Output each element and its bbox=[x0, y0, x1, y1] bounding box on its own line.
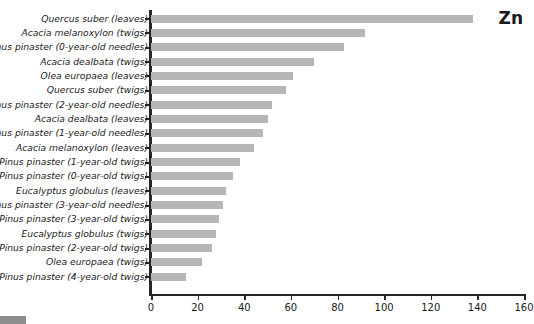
y-axis-tick bbox=[145, 147, 151, 149]
category-label: Pinus pinaster (1-year-old twigs) bbox=[0, 156, 148, 168]
y-axis-tick bbox=[145, 219, 151, 221]
bar bbox=[151, 144, 254, 152]
y-axis-tick bbox=[145, 75, 151, 77]
bar-row: Pinus pinaster (4-year-old twigs) bbox=[0, 270, 531, 284]
category-label: Pinus pinaster (4-year-old twigs) bbox=[0, 271, 148, 283]
x-axis-tick-label: 120 bbox=[421, 302, 440, 313]
category-label: Pinus pinaster (3-year-old needles) bbox=[0, 199, 148, 211]
bar-row: Eucalyptus globulus (twigs) bbox=[0, 227, 531, 241]
bar-row: Olea europaea (leaves) bbox=[0, 69, 531, 83]
x-axis-tick bbox=[198, 294, 200, 300]
category-label: Acacia melanoxylon (twigs) bbox=[21, 27, 148, 39]
category-label: Pinus pinaster (1-year-old needles) bbox=[0, 127, 148, 139]
y-axis-tick bbox=[145, 32, 151, 34]
bar-row: Acacia dealbata (leaves) bbox=[0, 112, 531, 126]
y-axis-tick bbox=[145, 18, 151, 20]
x-axis-tick-label: 20 bbox=[191, 302, 204, 313]
bar-row: Pinus pinaster (1-year-old twigs) bbox=[0, 155, 531, 169]
category-label: Quercus suber (leaves) bbox=[41, 13, 148, 25]
category-label: Quercus suber (twigs) bbox=[47, 84, 148, 96]
x-axis-tick-label: 140 bbox=[468, 302, 487, 313]
bar-row: Pinus pinaster (2-year-old needles) bbox=[0, 98, 531, 112]
category-label: Eucalyptus globulus (leaves) bbox=[16, 185, 148, 197]
y-axis-tick bbox=[145, 248, 151, 250]
x-axis-tick-label: 100 bbox=[375, 302, 394, 313]
bar-row: Pinus pinaster (0-year-old needles) bbox=[0, 40, 531, 54]
bar bbox=[151, 172, 233, 180]
y-axis-tick bbox=[145, 118, 151, 120]
y-axis-tick bbox=[145, 276, 151, 278]
bar-row: Acacia melanoxylon (twigs) bbox=[0, 26, 531, 40]
y-axis-tick bbox=[145, 190, 151, 192]
category-label: Pinus pinaster (3-year-old twigs) bbox=[0, 213, 148, 225]
bar-row: Olea europaea (twigs) bbox=[0, 255, 531, 269]
bar bbox=[151, 230, 216, 238]
bar-row: Quercus suber (twigs) bbox=[0, 83, 531, 97]
bar-row: Eucalyptus globulus (leaves) bbox=[0, 184, 531, 198]
x-axis-tick bbox=[477, 294, 479, 300]
x-axis-tick-label: 60 bbox=[285, 302, 298, 313]
category-label: Pinus pinaster (0-year-old needles) bbox=[0, 41, 148, 53]
bar bbox=[151, 158, 240, 166]
y-axis-tick bbox=[145, 162, 151, 164]
category-label: Acacia dealbata (leaves) bbox=[35, 113, 148, 125]
y-axis-tick bbox=[145, 61, 151, 63]
category-label: Pinus pinaster (2-year-old needles) bbox=[0, 99, 148, 111]
bar bbox=[151, 43, 344, 51]
x-axis-tick-label: 80 bbox=[331, 302, 344, 313]
x-axis-tick bbox=[384, 294, 386, 300]
bar-row: Quercus suber (leaves) bbox=[0, 12, 531, 26]
bar-row: Pinus pinaster (1-year-old needles) bbox=[0, 126, 531, 140]
bar-row: Pinus pinaster (0-year-old twigs) bbox=[0, 169, 531, 183]
bar bbox=[151, 86, 286, 94]
category-label: Eucalyptus globulus (twigs) bbox=[22, 228, 148, 240]
scan-edge-artifact bbox=[0, 316, 26, 324]
bar-row: Acacia dealbata (twigs) bbox=[0, 55, 531, 69]
bar bbox=[151, 201, 223, 209]
bar bbox=[151, 187, 226, 195]
bar bbox=[151, 115, 268, 123]
bar-row: Pinus pinaster (2-year-old twigs) bbox=[0, 241, 531, 255]
bar bbox=[151, 15, 473, 23]
category-label: Olea europaea (twigs) bbox=[46, 256, 148, 268]
bar bbox=[151, 58, 314, 66]
x-axis-tick bbox=[244, 294, 246, 300]
y-axis-tick bbox=[145, 262, 151, 264]
bar bbox=[151, 29, 365, 37]
y-axis-tick bbox=[145, 176, 151, 178]
bar bbox=[151, 101, 272, 109]
category-label: Acacia melanoxylon (leaves) bbox=[16, 142, 148, 154]
bar bbox=[151, 244, 212, 252]
bar bbox=[151, 129, 263, 137]
bar bbox=[151, 258, 202, 266]
x-axis-tick bbox=[291, 294, 293, 300]
x-axis-tick bbox=[524, 294, 526, 300]
y-axis-tick bbox=[145, 133, 151, 135]
category-label: Pinus pinaster (0-year-old twigs) bbox=[0, 170, 148, 182]
bar-row: Acacia melanoxylon (leaves) bbox=[0, 141, 531, 155]
x-axis-tick bbox=[338, 294, 340, 300]
bar-row: Pinus pinaster (3-year-old needles) bbox=[0, 198, 531, 212]
category-label: Acacia dealbata (twigs) bbox=[40, 56, 148, 68]
x-axis-tick-label: 160 bbox=[514, 302, 533, 313]
y-axis-tick bbox=[145, 104, 151, 106]
bar-row: Pinus pinaster (3-year-old twigs) bbox=[0, 212, 531, 226]
x-axis-tick bbox=[151, 294, 153, 300]
x-axis-tick-label: 40 bbox=[238, 302, 251, 313]
x-axis-tick-label: 0 bbox=[148, 302, 154, 313]
bar bbox=[151, 215, 219, 223]
y-axis-tick bbox=[145, 233, 151, 235]
category-label: Pinus pinaster (2-year-old twigs) bbox=[0, 242, 148, 254]
bar bbox=[151, 72, 293, 80]
category-label: Olea europaea (leaves) bbox=[41, 70, 148, 82]
bar bbox=[151, 273, 186, 281]
y-axis-tick bbox=[145, 90, 151, 92]
y-axis-tick bbox=[145, 205, 151, 207]
x-axis-tick bbox=[431, 294, 433, 300]
y-axis-tick bbox=[145, 47, 151, 49]
